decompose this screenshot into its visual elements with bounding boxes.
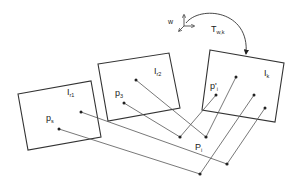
projection-diagram: Ir1 ps Ir2 p3 Ik p'i Pi w Tw,k	[0, 0, 299, 186]
label-i-k: Ik	[264, 68, 270, 79]
frame-i-r2	[98, 53, 180, 121]
label-transform: Tw,k	[211, 24, 225, 35]
label-p-prime-i: p'i	[210, 81, 218, 92]
rays	[59, 77, 265, 174]
label-i-r1: Ir1	[67, 87, 74, 98]
label-p-s: ps	[46, 113, 54, 124]
label-i-r2: Ir2	[154, 66, 161, 77]
label-p-3: p3	[115, 88, 123, 99]
frame-i-r1	[18, 81, 101, 150]
label-world: w	[167, 18, 174, 25]
label-P-i: Pi	[195, 142, 202, 153]
